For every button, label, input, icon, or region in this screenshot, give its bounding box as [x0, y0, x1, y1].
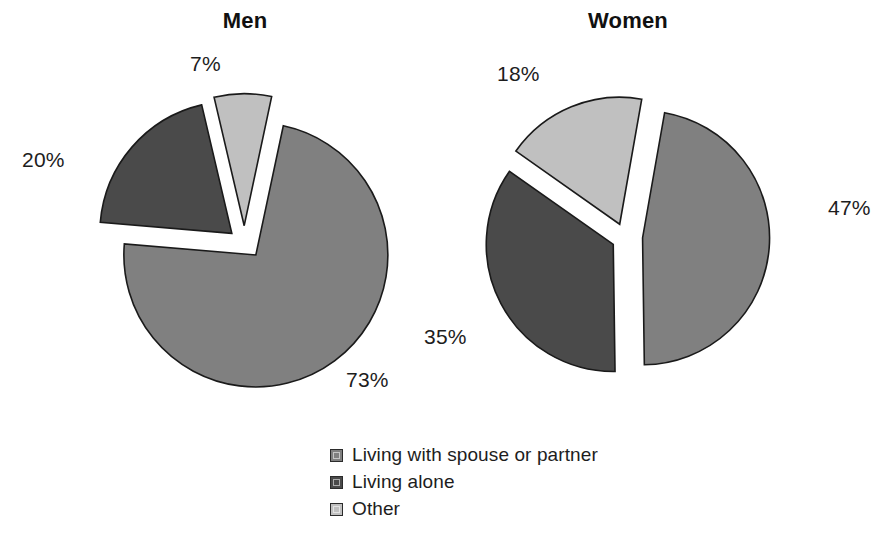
pie-slice: [100, 105, 232, 234]
legend-swatch-icon-living-alone: [330, 476, 343, 489]
legend-item-other: Other: [330, 497, 598, 521]
pie-chart-women: [387, 60, 887, 480]
legend-label-living-alone: Living alone: [352, 471, 455, 493]
slice-label-women-other: 18%: [497, 62, 540, 86]
slice-label-men-with-spouse: 73%: [346, 368, 389, 392]
pie-slice: [643, 113, 770, 365]
chart-title-women: Women: [533, 8, 723, 34]
chart-title-men: Men: [150, 8, 340, 34]
legend-label-living-with-spouse: Living with spouse or partner: [352, 444, 598, 466]
pie-chart-figure: Men 20% 7% 73% Women 18% 35% 47% Living …: [0, 0, 887, 542]
legend-label-other: Other: [352, 498, 400, 520]
slice-label-women-living-alone: 35%: [424, 325, 467, 349]
slice-label-women-with-spouse: 47%: [828, 196, 871, 220]
slice-label-men-other: 7%: [190, 52, 221, 76]
legend-swatch-icon-living-with-spouse: [330, 449, 343, 462]
slice-label-men-living-alone: 20%: [22, 148, 65, 172]
legend-item-living-alone: Living alone: [330, 470, 598, 494]
chart-legend: Living with spouse or partner Living alo…: [330, 443, 598, 521]
legend-item-living-with-spouse: Living with spouse or partner: [330, 443, 598, 467]
legend-swatch-icon-other: [330, 503, 343, 516]
